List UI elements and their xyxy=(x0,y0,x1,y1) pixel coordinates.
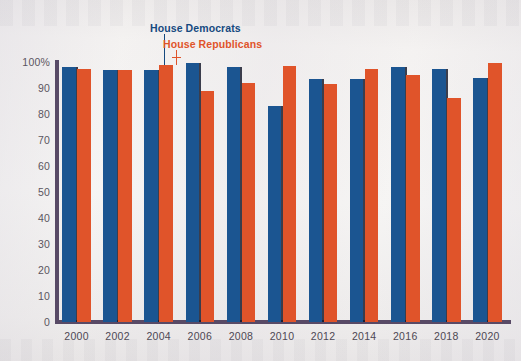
y-tick-label: 100% xyxy=(22,57,50,68)
bar-house-democrats xyxy=(268,106,282,322)
x-tick-label: 2012 xyxy=(311,330,336,342)
y-tick-label: 20 xyxy=(38,265,50,276)
bar-house-republicans xyxy=(447,98,461,322)
plot-area xyxy=(57,62,509,322)
chart-figure: 100%9080706050403020100 2000200220042006… xyxy=(0,0,521,361)
y-tick-label: 0 xyxy=(44,317,50,328)
bar-house-republicans xyxy=(201,91,215,322)
x-tick-label: 2006 xyxy=(188,330,213,342)
bar-house-democrats xyxy=(473,78,487,322)
bar-group xyxy=(268,62,297,322)
y-tick-label: 90 xyxy=(38,83,50,94)
bar-group xyxy=(473,62,502,322)
bar-house-republicans xyxy=(283,66,297,322)
bar-group xyxy=(186,62,215,322)
y-axis-labels: 100%9080706050403020100 xyxy=(0,0,50,361)
bar-house-republicans xyxy=(406,75,420,322)
bar-house-republicans xyxy=(242,83,256,322)
bar-group xyxy=(62,62,91,322)
bar-group xyxy=(103,62,132,322)
x-tick-label: 2002 xyxy=(105,330,130,342)
y-tick-label: 70 xyxy=(38,135,50,146)
y-tick-label: 30 xyxy=(38,239,50,250)
bar-house-democrats xyxy=(103,70,117,322)
bar-house-republicans xyxy=(159,65,173,322)
x-axis-labels: 2000200220042006200820102012201420162018… xyxy=(57,330,509,350)
y-tick-label: 60 xyxy=(38,161,50,172)
x-tick-label: 2000 xyxy=(64,330,89,342)
bar-house-republicans xyxy=(365,69,379,323)
x-tick-label: 2016 xyxy=(393,330,418,342)
bar-group xyxy=(391,62,420,322)
legend-republicans-leader-tick xyxy=(172,57,181,58)
bar-house-democrats xyxy=(350,79,364,322)
bar-house-democrats xyxy=(186,63,200,322)
bar-house-democrats xyxy=(144,70,158,322)
y-tick-label: 10 xyxy=(38,291,50,302)
bar-house-democrats xyxy=(309,79,323,322)
x-tick-label: 2008 xyxy=(229,330,254,342)
bar-house-democrats xyxy=(391,67,405,322)
bar-house-democrats xyxy=(62,67,76,322)
legend-label-house-republicans: House Republicans xyxy=(163,38,262,50)
y-tick-label: 80 xyxy=(38,109,50,120)
bar-house-republicans xyxy=(118,70,132,322)
y-tick-label: 50 xyxy=(38,187,50,198)
bar-group xyxy=(350,62,379,322)
x-tick-label: 2004 xyxy=(146,330,171,342)
bar-house-republicans xyxy=(324,84,338,322)
y-tick-label: 40 xyxy=(38,213,50,224)
x-tick-label: 2014 xyxy=(352,330,377,342)
bar-group xyxy=(227,62,256,322)
bar-group xyxy=(432,62,461,322)
x-tick-label: 2018 xyxy=(434,330,459,342)
x-tick-label: 2020 xyxy=(475,330,500,342)
bar-group xyxy=(309,62,338,322)
bar-house-republicans xyxy=(488,63,502,322)
bar-house-democrats xyxy=(227,67,241,322)
bar-house-republicans xyxy=(77,69,91,323)
x-tick-label: 2010 xyxy=(270,330,295,342)
bar-group xyxy=(144,62,173,322)
legend-label-house-democrats: House Democrats xyxy=(150,22,241,34)
bar-house-democrats xyxy=(432,69,446,323)
